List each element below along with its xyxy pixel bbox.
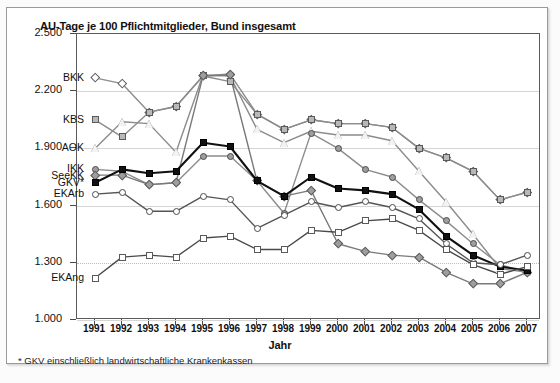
data-point-AOK-1997 [254,111,261,118]
y-tickmark [70,319,76,320]
series-line-AOK [95,76,527,200]
data-point-GKV-2000 [335,185,342,192]
plot-area: BKKKBSAOKIKKSeeKKGKV*EKArbEKAng [76,33,540,319]
data-point-AOK-1993 [146,109,153,116]
data-point-IKK-2001 [362,166,369,173]
data-point-AOK-2001 [362,120,369,127]
data-point-IKK-2002 [389,174,396,181]
data-point-EKAng-2005 [470,261,477,268]
data-point-EKArb-2001 [362,198,369,205]
series-label-EKAng: EKAng [51,271,84,283]
data-point-KBS-1992 [118,118,126,126]
data-point-GKV-2002 [389,191,396,198]
y-tick-label-2.500: 2.500 [0,26,62,38]
data-point-KBS-1998 [280,139,288,147]
chart-title: AU-Tage je 100 Pflichtmitglieder, Bund i… [40,20,296,32]
series-label-KBS: KBS [63,113,84,125]
data-point-EKArb-1998 [281,212,288,219]
data-point-EKAng-1996 [227,233,234,240]
data-point-EKArb-1993 [146,208,153,215]
data-point-EKAng-2007 [524,263,531,270]
data-point-AOK-2007 [524,189,531,196]
data-point-EKArb-1994 [173,208,180,215]
series-line-GKV [95,143,527,271]
series-label-GKV: GKV* [58,176,84,188]
data-point-EKArb-2006 [497,261,504,268]
data-point-AOK-1991 [92,116,99,123]
series-label-BKK: BKK [63,71,84,83]
data-point-IKK-1999 [308,130,315,137]
data-point-EKArb-1992 [119,189,126,196]
y-tick-label-1.600: 1.600 [0,198,62,210]
data-point-KBS-2004 [442,198,450,206]
data-point-EKAng-2003 [416,227,423,234]
series-label-EKArb: EKArb [54,187,84,199]
data-point-IKK-1995 [200,153,207,160]
data-point-EKArb-2000 [335,204,342,211]
data-point-KBS-2000 [334,131,342,139]
data-point-EKAng-1992 [119,254,126,261]
data-point-GKV-1995 [200,139,207,146]
data-point-GKV-2005 [470,252,477,259]
data-point-AOK-2004 [443,154,450,161]
data-point-EKAng-2000 [335,229,342,236]
data-point-KBS-2005 [469,230,477,238]
data-point-GKV-1993 [146,170,153,177]
data-point-GKV-1999 [308,174,315,181]
data-point-AOK-2005 [470,168,477,175]
data-point-GKV-1992 [119,166,126,173]
data-point-KBS-1994 [172,148,180,156]
data-point-AOK-1998 [281,126,288,133]
x-tick-label-2007: 2007 [506,323,546,334]
y-tick-label-1.000: 1.000 [0,312,62,324]
data-point-KBS-1991 [91,144,99,152]
data-point-EKAng-1995 [200,235,207,242]
data-point-GKV-2003 [416,206,423,213]
data-point-EKAng-2004 [443,246,450,253]
data-point-EKAng-1999 [308,227,315,234]
data-point-AOK-2003 [416,145,423,152]
data-point-IKK-2003 [416,196,423,203]
data-point-KBS-2003 [415,167,423,175]
data-point-EKAng-1994 [173,254,180,261]
data-point-KBS-2002 [388,137,396,145]
data-point-GKV-1994 [173,168,180,175]
data-point-EKArb-1997 [254,225,261,232]
data-point-AOK-1999 [308,116,315,123]
data-point-IKK-1996 [227,153,234,160]
data-point-AOK-1996 [227,78,234,85]
data-point-GKV-1997 [254,177,261,184]
data-point-EKAng-1993 [146,252,153,259]
data-point-EKArb-2007 [524,252,531,259]
series-label-AOK: AOK [62,141,84,153]
data-point-EKAng-2006 [497,271,504,278]
data-point-IKK-2004 [443,217,450,224]
data-point-KBS-2001 [361,131,369,139]
x-axis-title: Jahr [0,339,560,351]
gridline-1.000 [77,320,539,321]
data-point-AOK-2002 [389,124,396,131]
y-tick-label-2.200: 2.200 [0,83,62,95]
data-point-EKArb-1999 [308,198,315,205]
data-point-GKV-2004 [443,233,450,240]
data-point-EKAng-2002 [389,215,396,222]
data-point-GKV-1996 [227,143,234,150]
data-point-AOK-1994 [173,103,180,110]
data-point-EKAng-1998 [281,246,288,253]
data-point-IKK-2000 [335,145,342,152]
data-point-EKAng-1997 [254,246,261,253]
series-line-BKK [95,74,527,200]
data-point-GKV-2001 [362,187,369,194]
data-point-EKArb-2002 [389,204,396,211]
data-point-AOK-1992 [119,133,126,140]
data-point-KBS-1997 [253,125,261,133]
chart-footnote: * GKV einschließlich landwirtschaftliche… [18,355,252,366]
data-point-EKAng-1991 [92,275,99,282]
data-point-KBS-1993 [145,120,153,128]
data-point-IKK-2005 [470,240,477,247]
y-tick-label-1.900: 1.900 [0,140,62,152]
data-point-EKAng-2001 [362,217,369,224]
data-point-EKArb-1996 [227,196,234,203]
y-tick-label-1.300: 1.300 [0,255,62,267]
data-point-EKArb-1995 [200,193,207,200]
